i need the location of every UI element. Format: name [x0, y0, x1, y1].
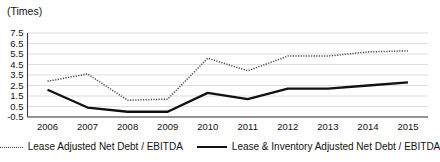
svg-text:7.5: 7.5	[10, 27, 23, 38]
svg-text:2014: 2014	[357, 121, 378, 132]
y-axis-tick-labels: 7.56.55.54.53.52.51.50.5-0.5	[7, 27, 23, 122]
legend-item-lease-adjusted: Lease Adjusted Net Debt / EBITDA	[0, 141, 183, 153]
series-line-lease-inventory-adjusted	[48, 82, 408, 111]
svg-text:2012: 2012	[277, 121, 298, 132]
dotted-line-icon	[0, 147, 23, 148]
svg-text:0.5: 0.5	[10, 101, 23, 112]
legend-label-lease-adjusted: Lease Adjusted Net Debt / EBITDA	[28, 141, 183, 153]
chart-legend: Lease Adjusted Net Debt / EBITDA Lease &…	[0, 138, 433, 156]
legend-label-lease-inventory-adjusted: Lease & Inventory Adjusted Net Debt / EB…	[232, 141, 440, 153]
svg-text:4.5: 4.5	[10, 59, 23, 70]
x-axis-tick-labels: 2006200720082009201020112012201320142015	[37, 121, 419, 132]
gridlines	[28, 33, 429, 117]
solid-line-icon	[197, 146, 227, 148]
svg-text:-0.5: -0.5	[7, 111, 23, 122]
svg-text:2013: 2013	[317, 121, 338, 132]
svg-text:2009: 2009	[157, 121, 178, 132]
svg-text:1.5: 1.5	[10, 90, 23, 101]
svg-text:3.5: 3.5	[10, 69, 23, 80]
svg-text:2015: 2015	[397, 121, 418, 132]
svg-text:2008: 2008	[117, 121, 138, 132]
svg-text:2011: 2011	[238, 121, 258, 132]
svg-text:5.5: 5.5	[10, 48, 23, 59]
svg-text:2007: 2007	[77, 121, 98, 132]
series-line-lease-adjusted	[48, 51, 408, 100]
svg-text:2006: 2006	[37, 121, 58, 132]
svg-text:2.5: 2.5	[10, 80, 23, 91]
svg-text:2010: 2010	[197, 121, 218, 132]
svg-text:6.5: 6.5	[10, 38, 23, 49]
legend-item-lease-inventory-adjusted: Lease & Inventory Adjusted Net Debt / EB…	[197, 141, 440, 153]
